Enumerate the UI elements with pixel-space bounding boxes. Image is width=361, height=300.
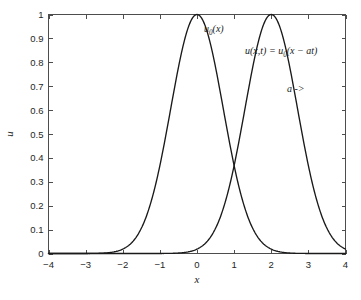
y-tick-label: 0.2 bbox=[30, 200, 43, 211]
y-tick-label: 0.7 bbox=[30, 81, 43, 92]
y-axis-label: u bbox=[3, 131, 15, 137]
x-tick-label: −1 bbox=[154, 259, 165, 270]
y-tick-label: 0.8 bbox=[30, 57, 43, 68]
y-tick-label: 0.5 bbox=[30, 129, 43, 140]
x-axis-label: x bbox=[194, 273, 200, 285]
x-tick-label: 2 bbox=[269, 259, 274, 270]
y-tick-label: 0.3 bbox=[30, 176, 43, 187]
y-tick-label: 0.6 bbox=[30, 105, 43, 116]
x-tick-label: −2 bbox=[117, 259, 128, 270]
y-tick-label: 1 bbox=[38, 9, 43, 20]
y-tick-label: 0.1 bbox=[30, 224, 43, 235]
y-tick-label: 0.4 bbox=[30, 152, 43, 163]
annotation-translated-profile-part1: u(x,t) = u bbox=[245, 45, 283, 57]
x-tick-label: 0 bbox=[194, 259, 199, 270]
x-tick-label: 4 bbox=[343, 259, 348, 270]
x-tick-label: 3 bbox=[306, 259, 311, 270]
x-tick-label: −3 bbox=[80, 259, 91, 270]
y-tick-label: 0.9 bbox=[30, 33, 43, 44]
y-tick-label: 0 bbox=[38, 248, 43, 259]
annotation-advection-speed: a -> bbox=[287, 83, 305, 94]
annotation-translated-profile-part2: (x − at) bbox=[287, 45, 318, 57]
figure-container: −4−3−2−101234 00.10.20.30.40.50.60.70.80… bbox=[0, 0, 361, 300]
wave-advection-chart: −4−3−2−101234 00.10.20.30.40.50.60.70.80… bbox=[0, 0, 361, 300]
x-tick-label: 1 bbox=[231, 259, 236, 270]
annotation-initial-profile-tail: (x) bbox=[213, 23, 225, 35]
x-tick-label: −4 bbox=[43, 259, 54, 270]
